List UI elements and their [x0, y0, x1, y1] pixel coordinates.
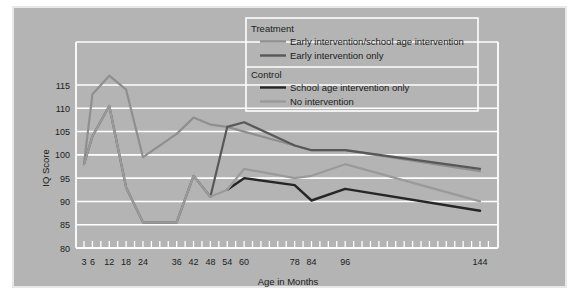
y-tick-label-115: 115: [56, 81, 70, 91]
x-tick-label-42: 42: [189, 257, 199, 267]
x-tick-label-78: 78: [290, 257, 300, 267]
y-tick-label-90: 90: [60, 197, 70, 207]
y-tick-label-110: 110: [56, 104, 70, 114]
x-tick-label-60: 60: [239, 257, 249, 267]
series-line-0: [84, 76, 480, 171]
y-tick-label-105: 105: [55, 127, 70, 137]
x-tick-label-36: 36: [172, 257, 182, 267]
y-tick-label-95: 95: [60, 174, 70, 184]
legend-entry-label-0-0: Early intervention/school age interventi…: [290, 36, 464, 47]
series-line-1: [84, 106, 480, 222]
series-line-3: [84, 106, 480, 222]
data-series-group: [84, 76, 480, 223]
gridlines-group: [76, 42, 498, 225]
x-tick-label-18: 18: [121, 257, 131, 267]
x-tick-label-6: 6: [90, 257, 95, 267]
x-axis-tick-labels-group: 361218243642485460788496144: [81, 257, 487, 267]
x-axis-title: Age in Months: [258, 276, 319, 287]
x-tick-label-84: 84: [306, 257, 316, 267]
y-tick-label-100: 100: [55, 150, 70, 160]
iq-score-line-chart-figure: 80859095100105110115 3612182436424854607…: [0, 0, 579, 305]
y-tick-label-85: 85: [60, 220, 70, 230]
x-tick-label-96: 96: [340, 257, 350, 267]
legend-entry-label-1-0: School age intervention only: [290, 82, 410, 93]
y-tick-label-80: 80: [60, 244, 70, 254]
series-line-2: [227, 178, 480, 211]
legend-entry-label-1-1: No intervention: [290, 96, 354, 107]
y-axis-title: IQ Score: [40, 149, 51, 187]
legend-group-heading-1: Control: [251, 69, 282, 80]
legend-entry-label-0-1: Early intervention only: [290, 50, 384, 61]
chart-canvas: 80859095100105110115 3612182436424854607…: [0, 0, 579, 305]
x-tick-label-24: 24: [138, 257, 148, 267]
x-tick-label-144: 144: [472, 257, 487, 267]
x-axis-minor-ticks-group: [84, 241, 488, 248]
x-tick-label-48: 48: [205, 257, 215, 267]
x-tick-label-54: 54: [222, 257, 232, 267]
legend-group-heading-0: Treatment: [251, 23, 294, 34]
x-tick-label-3: 3: [81, 257, 86, 267]
legend-box: TreatmentEarly intervention/school age i…: [246, 18, 478, 111]
y-axis-tick-labels-group: 80859095100105110115: [55, 81, 70, 254]
x-tick-label-12: 12: [104, 257, 114, 267]
